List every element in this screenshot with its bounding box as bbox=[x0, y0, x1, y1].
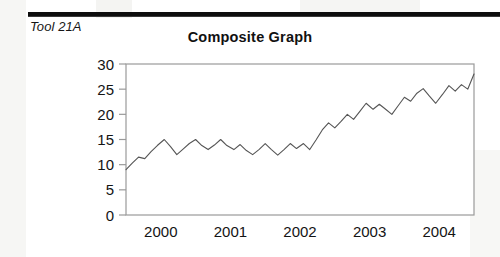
x-tick-label: 2000 bbox=[144, 223, 177, 240]
x-tick-label: 2002 bbox=[283, 223, 316, 240]
y-tick-label: 25 bbox=[97, 81, 114, 98]
y-tick-label: 30 bbox=[97, 56, 114, 73]
x-tick-label: 2001 bbox=[214, 223, 247, 240]
y-tick-label: 20 bbox=[97, 106, 114, 123]
y-axis-ticks: 051015202530 bbox=[97, 56, 126, 224]
plot-area bbox=[126, 64, 474, 215]
y-tick-label: 5 bbox=[106, 181, 114, 198]
x-tick-label: 2004 bbox=[423, 223, 456, 240]
x-axis-labels: 20002001200220032004 bbox=[144, 223, 456, 240]
plot-frame bbox=[126, 64, 474, 215]
y-tick-label: 0 bbox=[106, 207, 114, 224]
y-tick-label: 10 bbox=[97, 156, 114, 173]
chart-svg: 051015202530 20002001200220032004 bbox=[0, 0, 500, 257]
x-tick-label: 2003 bbox=[353, 223, 386, 240]
y-tick-label: 15 bbox=[97, 131, 114, 148]
composite-graph: 051015202530 20002001200220032004 bbox=[0, 0, 500, 257]
